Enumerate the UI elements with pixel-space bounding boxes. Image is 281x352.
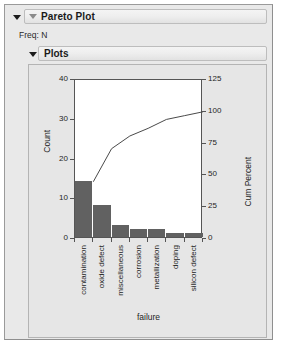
x-tick-0 bbox=[74, 238, 75, 242]
x-tick-5 bbox=[165, 238, 166, 242]
screen: Pareto Plot Freq: N Plots 01020304002550… bbox=[0, 0, 281, 352]
y-tick-label-40: 40 bbox=[28, 75, 68, 83]
plots-section-bar[interactable]: Plots bbox=[38, 46, 267, 61]
y2-tick-label-0: 0 bbox=[208, 234, 212, 242]
report-title-bar[interactable]: Pareto Plot bbox=[24, 9, 267, 24]
x-tick-4 bbox=[147, 238, 148, 242]
title-disclosure-triangle-icon[interactable] bbox=[29, 14, 37, 19]
plot-panel: 0102030400255075100125contaminationoxide… bbox=[28, 64, 267, 338]
x-tick-1 bbox=[92, 238, 93, 242]
x-axis-label-oxide-defect: oxide defect bbox=[97, 245, 106, 288]
y2-tick-label-75: 75 bbox=[208, 139, 217, 147]
y-axis-title-cum-percent: Cum Percent bbox=[243, 157, 253, 207]
x-tick-7 bbox=[202, 238, 203, 242]
y2-tick-100 bbox=[202, 111, 206, 112]
x-axis-label-doping: doping bbox=[171, 245, 180, 269]
y-tick-label-20: 20 bbox=[28, 155, 68, 163]
y2-tick-25 bbox=[202, 206, 206, 207]
plot-frame bbox=[74, 79, 202, 238]
plots-disclosure-triangle-icon[interactable] bbox=[29, 52, 37, 57]
y-tick-20 bbox=[70, 159, 74, 160]
freq-label: Freq: N bbox=[19, 30, 47, 40]
y2-tick-75 bbox=[202, 143, 206, 144]
cum-percent-polyline bbox=[93, 112, 203, 182]
y-tick-label-30: 30 bbox=[28, 115, 68, 123]
y-tick-label-0: 0 bbox=[28, 234, 68, 242]
y-tick-10 bbox=[70, 198, 74, 199]
cum-percent-line bbox=[75, 80, 203, 239]
x-axis-title: failure bbox=[29, 312, 268, 322]
x-axis-label-corrosion: corrosion bbox=[134, 245, 143, 278]
pareto-plot-window: Pareto Plot Freq: N Plots 01020304002550… bbox=[4, 4, 273, 340]
x-axis-label-silicon-defect: silicon defect bbox=[189, 245, 198, 291]
y-tick-label-10: 10 bbox=[28, 194, 68, 202]
y2-tick-label-50: 50 bbox=[208, 170, 217, 178]
x-tick-6 bbox=[184, 238, 185, 242]
x-tick-3 bbox=[129, 238, 130, 242]
page-title: Pareto Plot bbox=[41, 12, 95, 22]
x-axis-label-contamination: contamination bbox=[79, 245, 88, 295]
x-tick-2 bbox=[111, 238, 112, 242]
y-axis-title-count: Count bbox=[42, 130, 52, 153]
y2-tick-label-25: 25 bbox=[208, 202, 217, 210]
y2-tick-label-100: 100 bbox=[208, 107, 221, 115]
y-tick-30 bbox=[70, 119, 74, 120]
y-tick-40 bbox=[70, 79, 74, 80]
outer-disclosure-triangle-icon[interactable] bbox=[13, 15, 21, 20]
plots-section-title: Plots bbox=[44, 49, 68, 59]
y2-tick-125 bbox=[202, 79, 206, 80]
y2-tick-label-125: 125 bbox=[208, 75, 221, 83]
y2-tick-50 bbox=[202, 174, 206, 175]
x-axis-label-metallization: metallization bbox=[152, 245, 161, 289]
x-axis-label-miscellaneous: miscellaneous bbox=[116, 245, 125, 296]
